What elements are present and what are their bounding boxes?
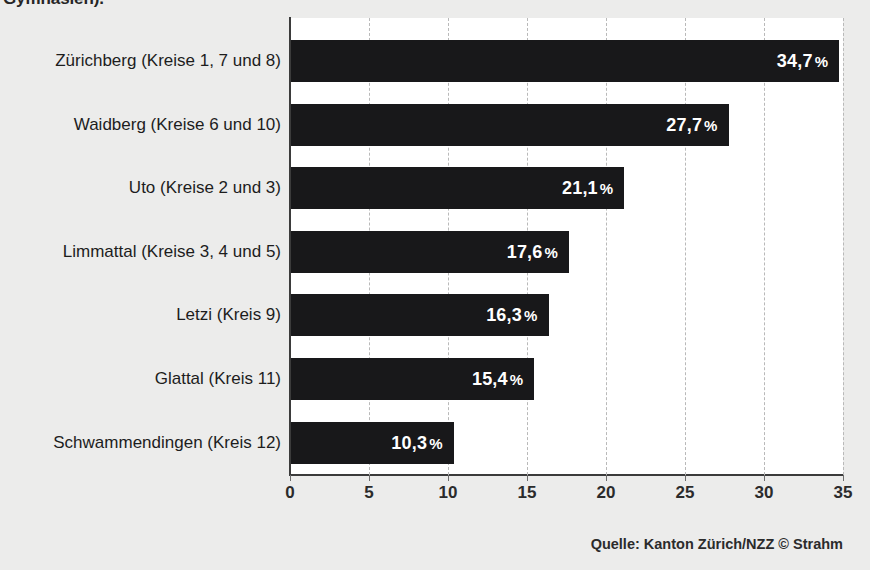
percent-symbol: % [815, 53, 829, 70]
category-label: Schwammendingen (Kreis 12) [53, 422, 281, 464]
tick-mark-30 [764, 475, 765, 481]
bar-row: Zürichberg (Kreise 1, 7 und 8)34,7% [0, 40, 870, 82]
bar: 17,6% [291, 231, 569, 273]
x-tick-label-30: 30 [755, 483, 774, 503]
percent-symbol: % [510, 371, 524, 388]
percent-symbol: % [524, 307, 538, 324]
category-label: Glattal (Kreis 11) [155, 358, 281, 400]
tick-mark-0 [290, 475, 291, 481]
bar-value-label: 27,7% [666, 104, 717, 146]
percent-symbol: % [704, 117, 718, 134]
x-axis-line [289, 474, 844, 476]
bar: 15,4% [291, 358, 534, 400]
chart-figure: Gymnasien). Zürichberg (Kreise 1, 7 und … [0, 0, 870, 570]
percent-symbol: % [545, 244, 559, 261]
bar-value-label: 21,1% [562, 167, 613, 209]
bar-row: Schwammendingen (Kreis 12)10,3% [0, 422, 870, 464]
bar-value-label: 17,6% [507, 231, 558, 273]
bar-row: Letzi (Kreis 9)16,3% [0, 294, 870, 336]
x-tick-label-10: 10 [439, 483, 458, 503]
source-credit: Quelle: Kanton Zürich/NZZ © Strahm [0, 536, 843, 552]
category-label: Uto (Kreise 2 und 3) [129, 167, 281, 209]
bar-value-label: 16,3% [486, 294, 537, 336]
tick-mark-5 [369, 475, 370, 481]
x-tick-label-5: 5 [364, 483, 373, 503]
x-tick-label-35: 35 [834, 483, 853, 503]
bar-chart: Zürichberg (Kreise 1, 7 und 8)34,7%Waidb… [0, 0, 870, 570]
category-label: Zürichberg (Kreise 1, 7 und 8) [55, 40, 281, 82]
bar-row: Limmattal (Kreise 3, 4 und 5)17,6% [0, 231, 870, 273]
tick-mark-10 [448, 475, 449, 481]
bar: 34,7% [291, 40, 839, 82]
tick-mark-20 [606, 475, 607, 481]
bar-row: Waidberg (Kreise 6 und 10)27,7% [0, 104, 870, 146]
category-label: Waidberg (Kreise 6 und 10) [74, 104, 281, 146]
bar-row: Glattal (Kreis 11)15,4% [0, 358, 870, 400]
bar-value-label: 10,3% [391, 422, 442, 464]
x-tick-label-20: 20 [597, 483, 616, 503]
bar: 27,7% [291, 104, 729, 146]
category-label: Letzi (Kreis 9) [176, 294, 281, 336]
x-tick-label-15: 15 [518, 483, 537, 503]
category-label: Limmattal (Kreise 3, 4 und 5) [63, 231, 281, 273]
bar-row: Uto (Kreise 2 und 3)21,1% [0, 167, 870, 209]
bar-value-label: 15,4% [472, 358, 523, 400]
percent-symbol: % [429, 435, 443, 452]
tick-mark-15 [527, 475, 528, 481]
tick-mark-25 [685, 475, 686, 481]
bar-value-label: 34,7% [777, 40, 828, 82]
percent-symbol: % [600, 180, 614, 197]
bar: 16,3% [291, 294, 549, 336]
tick-mark-35 [843, 475, 844, 481]
x-tick-label-0: 0 [285, 483, 294, 503]
bar: 21,1% [291, 167, 624, 209]
x-tick-label-25: 25 [676, 483, 695, 503]
bar: 10,3% [291, 422, 454, 464]
